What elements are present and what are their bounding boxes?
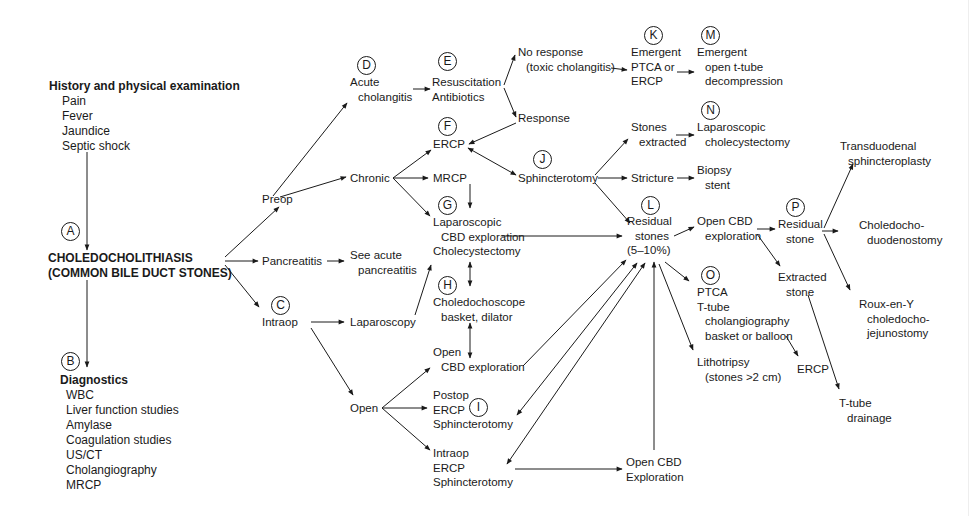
node-response: Response: [518, 111, 570, 126]
line: (toxic cholangitis): [518, 60, 615, 75]
line: extracted: [631, 135, 686, 150]
line: Resuscitation: [432, 75, 501, 90]
line: Biopsy: [697, 163, 732, 178]
line: Residual: [627, 214, 672, 229]
node-ercp-bottom: ERCP: [797, 362, 829, 377]
line: stone: [778, 285, 827, 300]
node-residual-stones: Residual stones (5–10%): [627, 214, 672, 258]
diagnostics-item: Liver function studies: [60, 403, 179, 418]
node-emergent-ptca: Emergent PTCA or ERCP: [631, 45, 681, 89]
line: Laparoscopic: [697, 120, 790, 135]
line: duodenostomy: [859, 233, 942, 248]
node-mrcp: MRCP: [433, 171, 467, 186]
line: ERCP: [433, 403, 513, 418]
line: Open CBD: [697, 214, 761, 229]
line: (5–10%): [627, 243, 672, 258]
line: basket or balloon: [697, 329, 793, 344]
step-badge-c: C: [271, 296, 290, 315]
node-see-acute-pancreatitis: See acute pancreatitis: [350, 248, 417, 277]
diagnostics-item: Amylase: [60, 418, 179, 433]
node-stones-extracted: Stones extracted: [631, 120, 686, 149]
history-item: Fever: [49, 109, 240, 124]
line: Stones: [631, 120, 686, 135]
line: Extracted: [778, 270, 827, 285]
line: stones: [627, 229, 672, 244]
line: Exploration: [626, 470, 684, 485]
node-lithotripsy: Lithotripsy (stones >2 cm): [697, 355, 781, 384]
node-resuscitation: Resuscitation Antibiotics: [432, 75, 501, 104]
history-item: Jaundice: [49, 124, 240, 139]
node-open-cbd-exploration-bottom: Open CBD Exploration: [626, 455, 684, 484]
line: Laparoscopic: [433, 215, 525, 230]
step-badge-j: J: [533, 150, 552, 169]
line: Roux-en-Y: [859, 297, 930, 312]
node-open-cbd-exploration: Open CBD exploration: [433, 345, 525, 374]
node-open-cbd-exploration-l: Open CBD exploration: [697, 214, 761, 243]
line: PTCA or: [631, 60, 681, 75]
line: jejunostomy: [859, 326, 930, 341]
node-laparoscopic-cholecystectomy: Laparoscopic cholecystectomy: [697, 120, 790, 149]
line: T-tube: [839, 396, 892, 411]
history-block: History and physical examination Pain Fe…: [49, 79, 240, 154]
flowchart-canvas: A B C D E F G H I J K L M N O P History …: [0, 0, 974, 516]
step-badge-o: O: [701, 266, 720, 285]
step-badge-a: A: [61, 222, 80, 241]
line: No response: [518, 45, 615, 60]
step-badge-b: B: [61, 352, 80, 371]
line: Emergent: [631, 45, 681, 60]
node-emergent-open-ttube: Emergent open t-tube decompression: [697, 45, 783, 89]
line: cholecystectomy: [697, 135, 790, 150]
step-badge-p: P: [786, 198, 805, 217]
history-item: Septic shock: [49, 139, 240, 154]
line: stent: [697, 178, 732, 193]
node-open: Open: [350, 401, 378, 416]
line: Open: [433, 345, 525, 360]
step-badge-g: G: [438, 196, 457, 215]
line: basket, dilator: [433, 310, 525, 325]
diagnostics-block: Diagnostics WBC Liver function studies A…: [60, 373, 179, 493]
step-badge-h: H: [438, 276, 457, 295]
line: decompression: [697, 74, 783, 89]
line: open t-tube: [697, 60, 783, 75]
history-heading: History and physical examination: [49, 79, 240, 94]
node-choledochoduodenostomy: Choledocho- duodenostomy: [859, 218, 942, 247]
diagnostics-item: US/CT: [60, 448, 179, 463]
node-choledochoscope: Choledochoscope basket, dilator: [433, 295, 525, 324]
node-chronic: Chronic: [350, 171, 390, 186]
diagnostics-item: MRCP: [60, 478, 179, 493]
diagnostics-heading: Diagnostics: [60, 373, 179, 388]
line: Open CBD: [626, 455, 684, 470]
line: stone: [778, 232, 823, 247]
node-no-response: No response (toxic cholangitis): [518, 45, 615, 74]
main-diagnosis: CHOLEDOCHOLITHIASIS (COMMON BILE DUCT ST…: [48, 251, 232, 281]
step-badge-l: L: [641, 196, 660, 215]
node-ercp-f: ERCP: [433, 137, 465, 152]
diagnostics-item: Coagulation studies: [60, 433, 179, 448]
line: Transduodenal: [840, 139, 931, 154]
line: drainage: [839, 411, 892, 426]
line: pancreatitis: [350, 263, 417, 278]
node-transduodenal-sphincteroplasty: Transduodenal sphincteroplasty: [840, 139, 931, 168]
line: sphincteroplasty: [840, 154, 931, 169]
line: Sphincterotomy: [433, 417, 513, 432]
line: Residual: [778, 217, 823, 232]
step-badge-f: F: [438, 117, 457, 136]
node-preop: Preop: [262, 192, 293, 207]
line: Intraop: [433, 446, 513, 461]
diagnostics-item: Cholangiography: [60, 463, 179, 478]
line: Lithotripsy: [697, 355, 781, 370]
line: Antibiotics: [432, 90, 501, 105]
line: CBD exploration: [433, 360, 525, 375]
line: Choledochoscope: [433, 295, 525, 310]
line: ERCP: [631, 74, 681, 89]
page-edge-divider: [968, 0, 969, 516]
node-extracted-stone: Extracted stone: [778, 270, 827, 299]
line: Postop: [433, 388, 513, 403]
step-badge-e: E: [438, 52, 457, 71]
line: Sphincterotomy: [433, 475, 513, 490]
history-item: Pain: [49, 94, 240, 109]
node-acute-cholangitis: Acute cholangitis: [350, 75, 412, 104]
line: Emergent: [697, 45, 783, 60]
node-residual-stone-p: Residual stone: [778, 217, 823, 246]
node-intraop: Intraop: [262, 315, 298, 330]
